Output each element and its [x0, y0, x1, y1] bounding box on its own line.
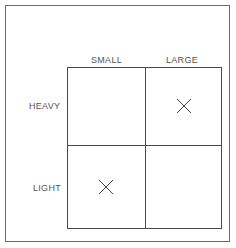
- row-label-heavy: HEAVY: [29, 101, 60, 111]
- column-label-small: SMALL: [91, 55, 122, 65]
- x-mark-icon-light-small: [97, 178, 115, 196]
- row-label-light: LIGHT: [33, 183, 61, 193]
- grid-vertical-divider: [145, 67, 146, 229]
- x-mark-icon-heavy-large: [175, 97, 193, 115]
- column-label-large: LARGE: [166, 55, 198, 65]
- grid-horizontal-divider: [67, 145, 222, 146]
